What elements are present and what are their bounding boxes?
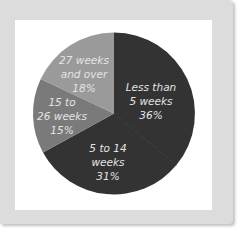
label-line: 5 weeks	[129, 95, 173, 107]
label-line: Less than	[126, 81, 176, 93]
label-line: 27 weeks	[59, 54, 109, 66]
label-value: 31%	[96, 170, 119, 182]
label-line: and over	[61, 68, 108, 80]
label-value: 36%	[139, 109, 162, 121]
label-line: 5 to 14	[89, 142, 126, 154]
label-value: 18%	[72, 82, 95, 94]
label-line: 15 to	[48, 96, 75, 108]
pie-chart: Less than 5 weeks 36% 5 to 14 weeks 31% …	[0, 0, 242, 229]
label-value: 15%	[50, 124, 73, 136]
label-line: weeks	[91, 156, 125, 168]
label-line: 26 weeks	[37, 110, 87, 122]
